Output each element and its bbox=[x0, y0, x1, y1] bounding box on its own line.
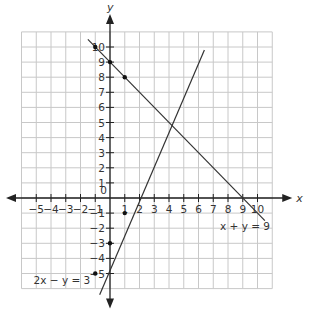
line-labels: x + y = 92x − y = 3 bbox=[34, 220, 271, 286]
y-axis-arrow-down-icon bbox=[106, 299, 114, 309]
y-tick-label: 4 bbox=[98, 132, 105, 144]
y-tick-label: 5 bbox=[98, 117, 105, 129]
x-tick-label: 3 bbox=[151, 203, 158, 215]
y-axis-arrow-up-icon bbox=[106, 14, 114, 24]
y-axis-label: y bbox=[106, 1, 114, 14]
data-point bbox=[93, 45, 97, 49]
plot-lines bbox=[88, 39, 265, 294]
line-chart: xy −5−4−3−2−112345678910−5−4−3−2−1123456… bbox=[0, 0, 309, 313]
x-tick-label: 8 bbox=[225, 203, 232, 215]
data-point bbox=[108, 60, 112, 64]
grid bbox=[22, 32, 273, 289]
x-tick-label: −4 bbox=[43, 203, 59, 215]
x-tick-label: −5 bbox=[29, 203, 44, 215]
x-axis-arrow-left-icon bbox=[6, 194, 16, 202]
series-line-0 bbox=[88, 39, 265, 220]
x-tick-label: 2 bbox=[136, 203, 143, 215]
data-point bbox=[123, 211, 127, 215]
y-tick-label: 9 bbox=[98, 56, 105, 68]
y-tick-label: −1 bbox=[90, 207, 105, 219]
y-tick-label: 2 bbox=[98, 162, 105, 174]
y-tick-label: 8 bbox=[98, 71, 105, 83]
data-point bbox=[93, 271, 97, 275]
y-tick-label: 6 bbox=[98, 101, 105, 113]
label-2x-minus-y-eq-3: 2x − y = 3 bbox=[34, 274, 91, 286]
y-tick-label: −2 bbox=[90, 222, 105, 234]
x-axis-arrow-right-icon bbox=[282, 194, 292, 202]
x-tick-label: −3 bbox=[58, 203, 73, 215]
x-tick-label: 9 bbox=[239, 203, 246, 215]
data-point bbox=[108, 241, 112, 245]
x-tick-label: 6 bbox=[195, 203, 202, 215]
label-x-plus-y-eq-9: x + y = 9 bbox=[220, 220, 270, 232]
y-tick-label: −3 bbox=[90, 237, 105, 249]
y-tick-label: −4 bbox=[90, 252, 106, 264]
x-tick-label: −2 bbox=[73, 203, 88, 215]
y-tick-label: 3 bbox=[98, 147, 105, 159]
x-tick-label: 5 bbox=[180, 203, 187, 215]
x-axis-label: x bbox=[295, 192, 303, 205]
x-tick-label: 7 bbox=[210, 203, 217, 215]
y-tick-label: 7 bbox=[98, 86, 105, 98]
x-tick-label: 4 bbox=[166, 203, 173, 215]
data-point bbox=[123, 75, 127, 79]
origin-label: 0 bbox=[100, 184, 107, 196]
